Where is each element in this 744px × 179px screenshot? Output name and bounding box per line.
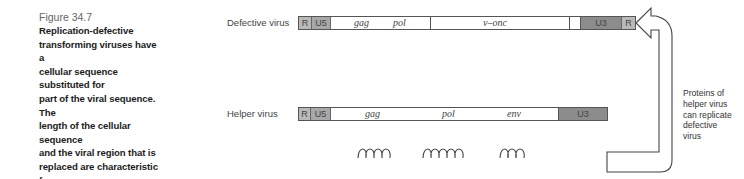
defective-virus-genome: R U5 gag pol v–onc U3 R [298, 16, 636, 30]
segment-u5: U5 [311, 108, 331, 120]
segment-gag-pol: gag pol [331, 17, 431, 29]
annotation-line: helper virus [683, 99, 743, 110]
segment-r-right: R [622, 17, 635, 29]
gene-pol: pol [442, 108, 455, 119]
segment-r-left: R [299, 17, 312, 29]
gene-pol: pol [393, 17, 406, 28]
annotation-line: Proteins of [683, 88, 743, 99]
segment-r-left: R [299, 108, 311, 120]
segment-u3: U3 [581, 17, 622, 29]
annotation-line: defective [683, 120, 743, 131]
arrow-annotation: Proteins of helper virus can replicate d… [683, 88, 743, 142]
gene-v-onc: v–onc [483, 17, 507, 28]
helper-virus-label: Helper virus [227, 108, 278, 119]
segment-u3: U3 [559, 108, 607, 120]
gene-gag: gag [354, 17, 369, 28]
annotation-line: virus [683, 131, 743, 142]
segment-spacer [570, 17, 581, 29]
segment-u5: U5 [312, 17, 331, 29]
gene-env: env [507, 108, 521, 119]
gene-gag: gag [365, 108, 380, 119]
protein-coils-icon [358, 149, 524, 158]
segment-v-onc: v–onc [431, 17, 570, 29]
defective-virus-label: Defective virus [227, 17, 289, 28]
annotation-line: can replicate [683, 110, 743, 121]
helper-virus-genome: R U5 gag pol env U3 [298, 107, 608, 121]
segment-gag-pol-env: gag pol env [331, 108, 559, 120]
